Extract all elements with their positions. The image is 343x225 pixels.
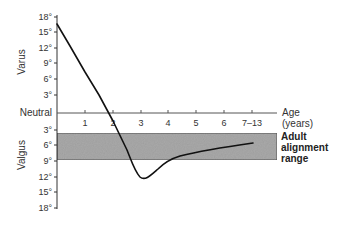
band-label-line1: Adult [281, 131, 307, 142]
x-tick-6: 6 [221, 118, 226, 128]
y-tick-varus-3: 3° [43, 90, 52, 100]
x-tick-3: 3 [138, 118, 143, 128]
y-tick-varus-9: 9° [43, 58, 52, 68]
y-tick-varus-12: 12° [38, 43, 52, 53]
neutral-label: Neutral [20, 107, 52, 118]
x-tick-7-13: 7–13 [242, 118, 262, 128]
x-tick-5: 5 [193, 118, 198, 128]
y-tick-valgus-12: 12° [38, 172, 52, 182]
band-label-line2: alignment [281, 142, 329, 153]
y-tick-valgus-3: 3° [43, 125, 52, 135]
adult-alignment-band [57, 133, 277, 160]
x-axis-title-age: Age [282, 107, 300, 118]
x-tick-4: 4 [165, 118, 170, 128]
y-tick-valgus-15: 15° [38, 187, 52, 197]
y-tick-valgus-18: 18° [38, 203, 52, 213]
valgus-label: Valgus [16, 140, 27, 170]
y-tick-varus-6: 6° [43, 74, 52, 84]
varus-valgus-chart: 18° 15° 12° 9° 6° 3° Neutral 3° 6° 9° 12… [0, 0, 343, 225]
varus-label: Varus [16, 49, 27, 74]
band-label-line3: range [281, 153, 309, 164]
y-tick-valgus-6: 6° [43, 140, 52, 150]
y-tick-varus-15: 15° [38, 27, 52, 37]
y-tick-varus-18: 18° [38, 12, 52, 22]
x-tick-1: 1 [82, 118, 87, 128]
y-tick-valgus-9: 9° [43, 156, 52, 166]
x-axis-title-years: (years) [282, 118, 313, 129]
